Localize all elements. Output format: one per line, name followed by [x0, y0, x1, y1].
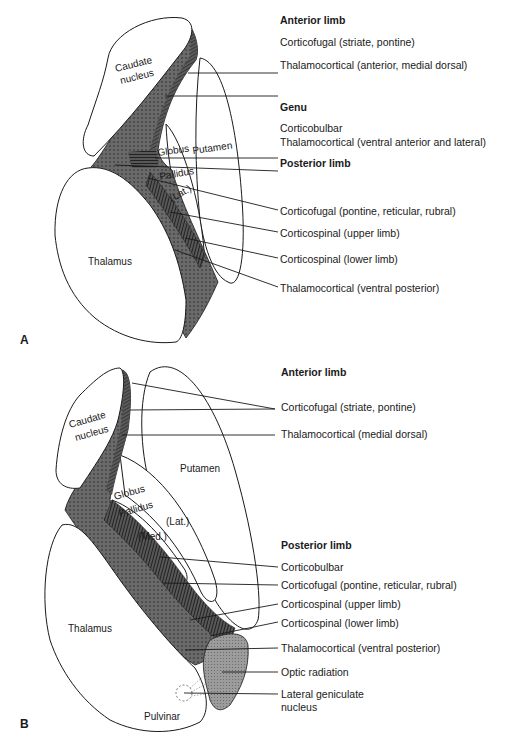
heading-posterior-limb-a: Posterior limb: [280, 157, 351, 169]
label-thalamus-b: Thalamus: [68, 623, 112, 634]
panel-letter-b: B: [20, 717, 29, 731]
panel-b-drawing: Caudate nucleus Putamen Globus Pallidus …: [45, 367, 278, 732]
figure-caption-cutoff: [20, 738, 500, 743]
label-med-b: (Med.): [138, 531, 167, 542]
label-thalamocortical-ventral-posterior-b: Thalamocortical (ventral posterior): [281, 642, 440, 654]
label-corticofugal-striate-b: Corticofugal (striate, pontine): [281, 401, 416, 413]
label-lat-b: (Lat.): [166, 516, 189, 527]
panel-a-drawing: Caudate nucleus Globus Putamen Pallidus …: [55, 17, 278, 342]
label-thalamocortical-ventral-posterior-a: Thalamocortical (ventral posterior): [280, 282, 439, 294]
label-corticofugal-pontine-b: Corticofugal (pontine, reticular, rubral…: [281, 579, 457, 591]
label-thalamus-a: Thalamus: [88, 256, 132, 267]
heading-anterior-limb-b: Anterior limb: [281, 366, 346, 378]
internal-capsule-figure: Caudate nucleus Globus Putamen Pallidus …: [0, 0, 510, 743]
label-lateral-geniculate-b: Lateral geniculate: [281, 688, 364, 700]
label-optic-radiation-b: Optic radiation: [281, 666, 349, 678]
label-corticofugal-pontine-a: Corticofugal (pontine, reticular, rubral…: [280, 205, 456, 217]
label-putamen-b: Putamen: [180, 463, 220, 474]
label-corticospinal-upper-a: Corticospinal (upper limb): [280, 227, 400, 239]
heading-posterior-limb-b: Posterior limb: [281, 539, 352, 551]
label-corticospinal-lower-b: Corticospinal (lower limb): [281, 617, 399, 629]
label-thalamocortical-ventral-anterior-a: Thalamocortical (ventral anterior and la…: [280, 136, 486, 148]
diagram-svg: Caudate nucleus Globus Putamen Pallidus …: [0, 0, 510, 743]
label-corticospinal-upper-b: Corticospinal (upper limb): [281, 598, 401, 610]
label-lateral-geniculate-b-line2: nucleus: [281, 701, 317, 713]
label-thalamocortical-anterior-a: Thalamocortical (anterior, medial dorsal…: [280, 59, 467, 71]
label-globus-a: Globus: [157, 143, 190, 158]
label-corticospinal-lower-a: Corticospinal (lower limb): [280, 253, 398, 265]
label-corticobulbar-a: Corticobulbar: [280, 122, 342, 134]
heading-anterior-limb-a: Anterior limb: [280, 14, 345, 26]
label-corticofugal-striate-a: Corticofugal (striate, pontine): [280, 36, 415, 48]
panel-letter-a: A: [20, 333, 29, 347]
label-pulvinar-b: Pulvinar: [144, 711, 181, 722]
heading-genu-a: Genu: [280, 101, 307, 113]
label-thalamocortical-medial-dorsal-b: Thalamocortical (medial dorsal): [281, 428, 427, 440]
label-corticobulbar-b: Corticobulbar: [281, 561, 343, 573]
